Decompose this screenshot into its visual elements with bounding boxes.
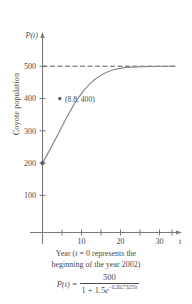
population-curve: [43, 66, 176, 163]
x-tick-label-10: 10: [78, 237, 86, 246]
point-annotation-label: (8.8, 400): [65, 95, 95, 104]
formula-fraction: 500 1 + 1.5e−0.20273255t: [80, 274, 140, 295]
formula-exponent: −0.20273255t: [109, 284, 137, 290]
formula-numerator: 500: [99, 274, 120, 283]
y-axis-name-label: P(t): [25, 31, 39, 40]
coyote-population-figure: 500 400 300 200 100 10 20 30 P(t) t (8.8…: [0, 0, 192, 304]
initial-point-marker: [40, 161, 44, 165]
x-tick-label-30: 30: [156, 237, 164, 246]
y-tick-label-200: 200: [24, 159, 36, 168]
formula-denominator: 1 + 1.5e−0.20273255t: [80, 284, 140, 295]
formula-denominator-prefix: 1 + 1.5: [82, 286, 106, 295]
y-axis-arrow-icon: [40, 32, 44, 38]
y-tick-label-500: 500: [24, 62, 36, 71]
x-tick-label-20: 20: [117, 237, 125, 246]
y-axis-title: Coyote population: [5, 39, 21, 169]
caption-line1-pre: Year (: [56, 249, 75, 258]
y-tick-label-300: 300: [24, 127, 36, 136]
caption-line1-post: = 0 represents the: [77, 249, 136, 258]
y-tick-label-400: 400: [24, 94, 36, 103]
y-axis-title-text: Coyote population: [12, 73, 21, 135]
x-axis-name-label: t: [179, 237, 182, 246]
annotated-point-marker: [58, 97, 61, 100]
caption-line2: beginning of the year 2002): [52, 260, 141, 269]
x-axis-caption: Year (t = 0 represents the beginning of …: [16, 248, 176, 270]
formula-left-side: P(t) =: [57, 280, 78, 289]
model-formula: P(t) = 500 1 + 1.5e−0.20273255t: [10, 274, 186, 295]
x-axis-arrow-icon: [176, 230, 182, 234]
y-tick-label-100: 100: [24, 191, 36, 200]
